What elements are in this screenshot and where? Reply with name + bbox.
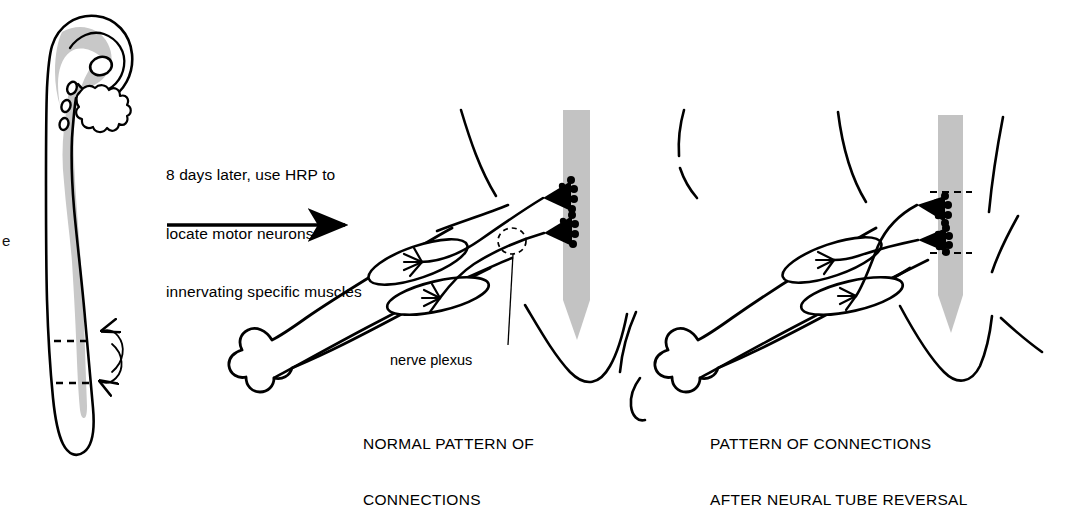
- annotation-line-2: locate motor neurons: [166, 224, 362, 244]
- body-wall-upper-left: [461, 110, 496, 196]
- annotation-line-1: 8 days later, use HRP to: [166, 165, 362, 185]
- body-wall-left-lower-r: [680, 168, 697, 198]
- nerve-plexus-label: nerve plexus: [390, 352, 472, 368]
- caption-normal-line-2: CONNECTIONS: [363, 491, 534, 509]
- panel-reversed-pattern: [655, 110, 1042, 392]
- caption-normal-pattern: NORMAL PATTERN OF CONNECTIONS: [363, 398, 534, 509]
- body-wall-right-edge: [620, 312, 636, 372]
- clipped-left-edge-text: e: [2, 232, 10, 249]
- annotation-line-3: innervating specific muscles: [166, 282, 362, 302]
- caption-reversed-pattern: PATTERN OF CONNECTIONS AFTER NEURAL TUBE…: [710, 398, 968, 509]
- body-wall-right-tail: [631, 378, 645, 420]
- body-wall-right-edge-r: [989, 117, 1003, 212]
- body-wall-left-r: [679, 110, 684, 156]
- body-wall-right-tail-r: [1001, 318, 1042, 352]
- body-wall-upper-r: [838, 112, 866, 202]
- nerve-plexus-leader-line: [508, 254, 513, 345]
- embryo-reversal-arrow-upper: [102, 330, 123, 372]
- embryo-branchial-arches: [76, 85, 131, 132]
- panel-embryo: [46, 16, 132, 455]
- body-wall-right-mid-r: [992, 216, 1018, 272]
- caption-reversed-line-2: AFTER NEURAL TUBE REVERSAL: [710, 491, 968, 509]
- caption-reversed-line-1: PATTERN OF CONNECTIONS: [710, 435, 968, 454]
- caption-normal-line-1: NORMAL PATTERN OF: [363, 435, 534, 454]
- annotation-text: 8 days later, use HRP to locate motor ne…: [166, 126, 362, 321]
